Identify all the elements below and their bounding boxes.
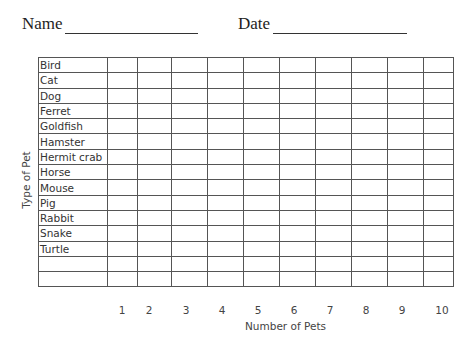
tally-cell[interactable] bbox=[138, 88, 172, 103]
tally-cell[interactable] bbox=[138, 210, 172, 225]
tally-cell[interactable] bbox=[138, 103, 172, 118]
tally-cell[interactable] bbox=[138, 256, 172, 271]
tally-cell[interactable] bbox=[138, 195, 172, 210]
tally-cell[interactable] bbox=[208, 180, 244, 195]
tally-cell[interactable] bbox=[316, 149, 352, 164]
tally-cell[interactable] bbox=[172, 226, 208, 241]
tally-cell[interactable] bbox=[138, 134, 172, 149]
tally-cell[interactable] bbox=[388, 88, 424, 103]
tally-cell[interactable] bbox=[352, 119, 388, 134]
tally-cell[interactable] bbox=[280, 226, 316, 241]
tally-cell[interactable] bbox=[388, 256, 424, 271]
tally-cell[interactable] bbox=[352, 210, 388, 225]
tally-cell[interactable] bbox=[244, 134, 280, 149]
tally-cell[interactable] bbox=[388, 73, 424, 88]
tally-cell[interactable] bbox=[244, 73, 280, 88]
tally-cell[interactable] bbox=[388, 180, 424, 195]
tally-cell[interactable] bbox=[316, 88, 352, 103]
tally-cell[interactable] bbox=[172, 272, 208, 287]
tally-cell[interactable] bbox=[108, 241, 138, 256]
tally-cell[interactable] bbox=[108, 134, 138, 149]
tally-cell[interactable] bbox=[108, 119, 138, 134]
tally-cell[interactable] bbox=[352, 241, 388, 256]
tally-cell[interactable] bbox=[172, 103, 208, 118]
tally-cell[interactable] bbox=[424, 241, 454, 256]
tally-cell[interactable] bbox=[424, 226, 454, 241]
tally-cell[interactable] bbox=[424, 256, 454, 271]
tally-cell[interactable] bbox=[280, 180, 316, 195]
tally-cell[interactable] bbox=[388, 210, 424, 225]
tally-cell[interactable] bbox=[280, 103, 316, 118]
tally-cell[interactable] bbox=[388, 241, 424, 256]
tally-cell[interactable] bbox=[280, 241, 316, 256]
tally-cell[interactable] bbox=[424, 272, 454, 287]
tally-cell[interactable] bbox=[108, 103, 138, 118]
tally-cell[interactable] bbox=[138, 241, 172, 256]
tally-cell[interactable] bbox=[424, 58, 454, 73]
tally-cell[interactable] bbox=[108, 195, 138, 210]
tally-cell[interactable] bbox=[316, 58, 352, 73]
tally-cell[interactable] bbox=[352, 73, 388, 88]
tally-cell[interactable] bbox=[208, 272, 244, 287]
tally-cell[interactable] bbox=[352, 180, 388, 195]
tally-cell[interactable] bbox=[138, 58, 172, 73]
tally-cell[interactable] bbox=[208, 119, 244, 134]
tally-cell[interactable] bbox=[388, 149, 424, 164]
tally-cell[interactable] bbox=[280, 256, 316, 271]
tally-cell[interactable] bbox=[352, 272, 388, 287]
tally-cell[interactable] bbox=[280, 210, 316, 225]
tally-cell[interactable] bbox=[352, 103, 388, 118]
tally-cell[interactable] bbox=[352, 88, 388, 103]
tally-cell[interactable] bbox=[316, 180, 352, 195]
tally-cell[interactable] bbox=[424, 134, 454, 149]
tally-cell[interactable] bbox=[352, 195, 388, 210]
tally-cell[interactable] bbox=[388, 119, 424, 134]
tally-cell[interactable] bbox=[424, 73, 454, 88]
tally-cell[interactable] bbox=[172, 73, 208, 88]
tally-cell[interactable] bbox=[244, 272, 280, 287]
tally-cell[interactable] bbox=[316, 134, 352, 149]
tally-cell[interactable] bbox=[208, 103, 244, 118]
tally-cell[interactable] bbox=[208, 226, 244, 241]
tally-cell[interactable] bbox=[208, 195, 244, 210]
tally-cell[interactable] bbox=[172, 119, 208, 134]
tally-cell[interactable] bbox=[208, 88, 244, 103]
tally-cell[interactable] bbox=[388, 226, 424, 241]
tally-cell[interactable] bbox=[172, 58, 208, 73]
tally-cell[interactable] bbox=[244, 195, 280, 210]
tally-cell[interactable] bbox=[244, 226, 280, 241]
tally-cell[interactable] bbox=[108, 226, 138, 241]
tally-cell[interactable] bbox=[316, 256, 352, 271]
tally-cell[interactable] bbox=[388, 272, 424, 287]
tally-cell[interactable] bbox=[316, 226, 352, 241]
tally-cell[interactable] bbox=[388, 195, 424, 210]
tally-cell[interactable] bbox=[316, 210, 352, 225]
tally-cell[interactable] bbox=[244, 241, 280, 256]
tally-cell[interactable] bbox=[280, 272, 316, 287]
tally-cell[interactable] bbox=[108, 58, 138, 73]
tally-cell[interactable] bbox=[280, 88, 316, 103]
tally-cell[interactable] bbox=[108, 256, 138, 271]
tally-cell[interactable] bbox=[316, 241, 352, 256]
tally-cell[interactable] bbox=[244, 210, 280, 225]
tally-cell[interactable] bbox=[244, 119, 280, 134]
tally-cell[interactable] bbox=[352, 149, 388, 164]
tally-cell[interactable] bbox=[316, 119, 352, 134]
tally-cell[interactable] bbox=[208, 241, 244, 256]
tally-cell[interactable] bbox=[172, 149, 208, 164]
tally-cell[interactable] bbox=[280, 134, 316, 149]
tally-cell[interactable] bbox=[108, 88, 138, 103]
tally-cell[interactable] bbox=[388, 134, 424, 149]
tally-cell[interactable] bbox=[424, 88, 454, 103]
tally-cell[interactable] bbox=[424, 103, 454, 118]
tally-cell[interactable] bbox=[172, 165, 208, 180]
tally-cell[interactable] bbox=[352, 58, 388, 73]
tally-cell[interactable] bbox=[138, 180, 172, 195]
tally-cell[interactable] bbox=[208, 149, 244, 164]
tally-cell[interactable] bbox=[280, 58, 316, 73]
name-blank-line[interactable] bbox=[65, 33, 198, 34]
tally-cell[interactable] bbox=[280, 195, 316, 210]
tally-cell[interactable] bbox=[108, 272, 138, 287]
tally-cell[interactable] bbox=[280, 149, 316, 164]
tally-cell[interactable] bbox=[316, 103, 352, 118]
